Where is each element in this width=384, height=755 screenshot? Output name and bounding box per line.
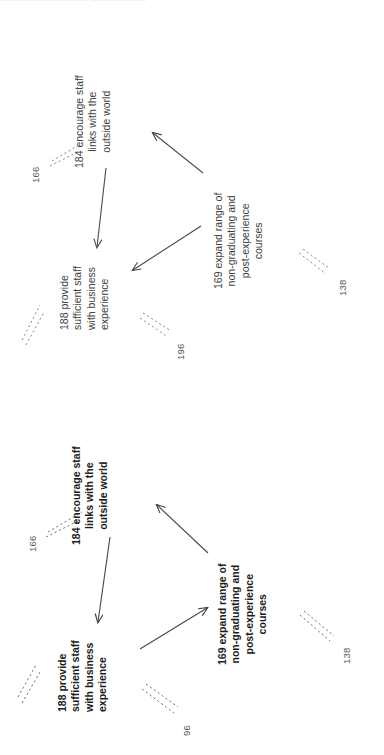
node-169-bottom-line-3: post-experience [243, 563, 256, 665]
node-169-bottom-line-4: courses [256, 563, 269, 665]
node-169-bottom-line-1: 169 expand range of [216, 563, 229, 665]
edge-169-to-188-top [133, 226, 201, 270]
dashed-edge-corner2-top [26, 312, 44, 345]
node-184-bottom-line-1: 184 encourage staff [70, 446, 83, 545]
node-169-bottom[interactable]: 169 expand range of non-graduating and p… [216, 563, 270, 665]
dashed-edge-196b-top [143, 313, 171, 331]
node-188-top[interactable]: 188 provide sufficient staff with busine… [58, 266, 112, 330]
node-184-top[interactable]: 184 encourage staff links with the outsi… [73, 75, 113, 168]
dashed-edge-corner-top [22, 305, 40, 340]
node-184-bottom-line-3: outside world [97, 446, 110, 545]
dashed-edge-corner2-bottom [22, 672, 40, 703]
node-188-top-line-2: sufficient staff [71, 266, 84, 330]
edge-188-to-169-bottom [140, 608, 207, 649]
node-188-bottom-line-2: sufficient staff [69, 640, 82, 712]
dashed-edge-138-bottom [300, 615, 330, 641]
edge-184-to-188-bottom [98, 537, 110, 622]
node-169-top-line-2: non-graduating and [225, 193, 238, 289]
node-184-bottom-line-2: links with the [83, 446, 96, 545]
label-138-bottom: 138 [341, 648, 352, 664]
dashed-edge-corner-bottom [18, 665, 36, 697]
node-188-top-line-3: with business [85, 266, 98, 330]
node-184-top-line-1: 184 encourage staff [73, 75, 86, 168]
edge-169-to-184-top [153, 133, 203, 173]
dashed-edge-196-top [140, 318, 168, 337]
node-169-top-line-3: post-experience [239, 193, 252, 289]
node-184-top-line-3: outside world [100, 75, 113, 168]
node-184-bottom[interactable]: 184 encourage staff links with the outsi… [70, 446, 110, 545]
node-188-bottom-line-4: experience [96, 640, 109, 712]
node-188-bottom-line-3: with business [83, 640, 96, 712]
node-188-top-line-1: 188 provide [58, 266, 71, 330]
label-196-top: 196 [175, 344, 186, 360]
label-166-top: 166 [30, 167, 41, 183]
node-188-bottom[interactable]: 188 provide sufficient staff with busine… [56, 640, 110, 712]
node-184-top-line-2: links with the [86, 75, 99, 168]
label-166-bottom: 166 [27, 536, 38, 552]
diagram-panel-top: 184 encourage staff links with the outsi… [0, 0, 384, 378]
dashed-edge-138-top [299, 253, 326, 274]
node-169-top-line-1: 169 expand range of [212, 193, 225, 289]
node-169-bottom-line-2: non-graduating and [229, 563, 242, 665]
dashed-edge-138b-bottom [304, 611, 334, 636]
node-169-top[interactable]: 169 expand range of non-graduating and p… [212, 193, 266, 289]
label-96-bottom: 96 [181, 725, 192, 736]
node-188-top-line-4: experience [98, 266, 111, 330]
diagram-page: ▬▬▬▬▬ ▬▬▬▬ ▬▬▬▬▬▬ [0, 0, 384, 755]
label-138-top: 138 [337, 280, 348, 296]
node-169-top-line-4: courses [252, 193, 265, 289]
edge-169-to-184-bottom [157, 505, 208, 553]
edge-184-to-188-top [97, 168, 106, 247]
node-188-bottom-line-1: 188 provide [56, 640, 69, 712]
diagram-panel-bottom: 184 encourage staff links with the outsi… [0, 377, 384, 755]
